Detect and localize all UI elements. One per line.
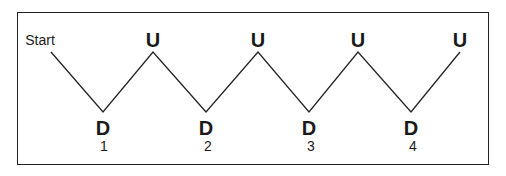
peak-label-3: U — [351, 30, 365, 50]
peak-label-2: U — [251, 30, 265, 50]
trough-number-3: 3 — [307, 139, 315, 153]
trough-label-4: D — [404, 118, 418, 138]
trough-number-1: 1 — [100, 139, 108, 153]
peak-label-1: U — [146, 30, 160, 50]
peak-label-4: U — [453, 30, 467, 50]
trough-label-3: D — [302, 118, 316, 138]
start-label: Start — [25, 33, 55, 47]
zigzag-path — [0, 0, 506, 176]
trough-label-1: D — [96, 118, 110, 138]
trough-number-2: 2 — [204, 139, 212, 153]
trough-label-2: D — [199, 118, 213, 138]
trough-number-4: 4 — [409, 139, 417, 153]
